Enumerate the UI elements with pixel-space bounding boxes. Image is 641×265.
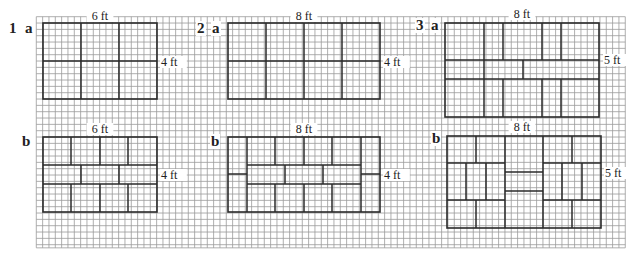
question-labels: 1ab2ab3ab	[8, 17, 441, 149]
dimension-label-3b-height: 5 ft	[605, 166, 622, 180]
dimension-label-3a-height: 5 ft	[604, 53, 621, 67]
tiling-diagram: 6 ft4 ft6 ft4 ft8 ft4 ft8 ft4 ft8 ft5 ft…	[0, 0, 641, 265]
figure-3a	[445, 23, 599, 117]
label-q3a: a	[431, 17, 439, 33]
label-q2a: a	[212, 20, 220, 36]
label-q2b: b	[211, 133, 219, 149]
dimension-label-1b-height: 4 ft	[161, 168, 178, 182]
figure-2a	[228, 23, 380, 99]
dimension-label-1b-width: 6 ft	[92, 122, 109, 136]
label-q1a: a	[25, 20, 33, 36]
label-q3: 3	[416, 17, 424, 33]
graph-paper-grid	[36, 17, 625, 248]
dimension-label-2b-height: 4 ft	[384, 168, 401, 182]
dimension-label-2a-height: 4 ft	[384, 55, 401, 69]
label-q1b: b	[22, 133, 30, 149]
dimension-label-3b-width: 8 ft	[514, 120, 531, 134]
dimension-label-3a-width: 8 ft	[514, 7, 531, 21]
dimension-label-2b-width: 8 ft	[296, 122, 313, 136]
dimension-label-1a-width: 6 ft	[92, 9, 109, 23]
figure-outline	[445, 23, 599, 117]
label-q2: 2	[197, 20, 205, 36]
dimension-label-2a-width: 8 ft	[296, 9, 313, 23]
label-q1: 1	[9, 20, 17, 36]
label-q3b: b	[432, 130, 440, 146]
dimension-label-1a-height: 4 ft	[161, 55, 178, 69]
